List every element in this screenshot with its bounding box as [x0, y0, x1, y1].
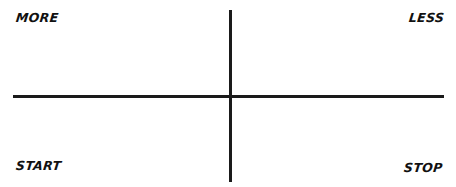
- quadrant-label-stop: STOP: [404, 162, 444, 175]
- quadrant-label-start: START: [15, 160, 62, 173]
- quadrant-label-more: MORE: [15, 12, 59, 25]
- vertical-axis-line: [229, 10, 232, 182]
- quadrant-label-less: LESS: [408, 12, 445, 25]
- quadrant-diagram: MORE LESS START STOP: [0, 0, 456, 187]
